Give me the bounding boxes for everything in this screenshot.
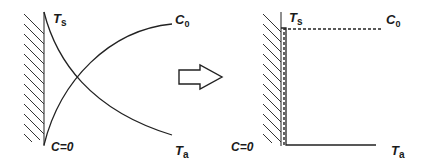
left-label-c-zero: C=0 <box>51 140 74 154</box>
right-label-c0: C0 <box>386 12 400 29</box>
right-label-c-zero: C=0 <box>231 140 254 154</box>
right-wall-hatching <box>263 14 281 143</box>
right-label-ts: Ts <box>289 10 303 27</box>
left-concentration-curve <box>44 24 172 145</box>
right-panel: Ts C0 C=0 Ta <box>231 10 405 160</box>
transition-arrow-icon <box>179 65 222 89</box>
left-wall-hatching <box>24 14 44 142</box>
right-temperature-profile <box>281 28 376 145</box>
left-label-ta: Ta <box>175 143 189 160</box>
right-label-ta: Ta <box>391 143 405 160</box>
left-panel: Ts C0 C=0 Ta <box>24 11 189 160</box>
left-label-c0: C0 <box>175 12 189 29</box>
left-label-ts: Ts <box>53 11 67 28</box>
diagram-canvas: Ts C0 C=0 Ta <box>0 0 421 166</box>
left-temperature-curve <box>44 12 172 135</box>
right-concentration-profile <box>284 29 381 145</box>
